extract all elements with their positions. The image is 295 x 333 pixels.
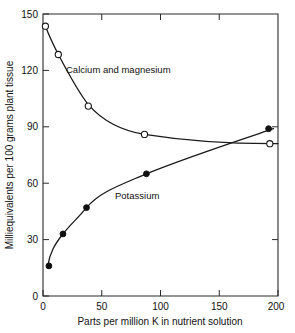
datapoint-camg-1 bbox=[42, 23, 48, 29]
y-tick-label-60: 60 bbox=[27, 178, 39, 189]
x-axis-title: Parts per million K in nutrient solution bbox=[77, 316, 242, 327]
datapoint-camg-5 bbox=[267, 141, 273, 147]
chart-figure: 0 30 60 90 120 150 0 50 100 150 200 bbox=[0, 0, 295, 333]
x-tick-label-50: 50 bbox=[96, 301, 108, 312]
chart-svg: 0 30 60 90 120 150 0 50 100 150 200 bbox=[0, 0, 295, 333]
series-label-potassium: Potassium bbox=[115, 190, 159, 201]
y-axis-title: Milliequivalents per 100 grams plant tis… bbox=[4, 60, 15, 249]
datapoint-camg-4 bbox=[141, 131, 147, 137]
y-tick-label-120: 120 bbox=[21, 65, 38, 76]
y-tick-label-90: 90 bbox=[27, 121, 39, 132]
x-tick-label-100: 100 bbox=[152, 301, 169, 312]
y-tick-label-30: 30 bbox=[27, 234, 39, 245]
series-label-calcium-magnesium: Calcium and magnesium bbox=[66, 64, 171, 75]
chart-background bbox=[0, 0, 295, 333]
x-tick-label-150: 150 bbox=[211, 301, 228, 312]
y-tick-label-0: 0 bbox=[32, 291, 38, 302]
datapoint-camg-3 bbox=[85, 103, 91, 109]
datapoint-k-4 bbox=[144, 171, 150, 177]
datapoint-k-2 bbox=[60, 231, 66, 237]
datapoint-camg-2 bbox=[55, 51, 61, 57]
datapoint-k-3 bbox=[84, 205, 90, 211]
x-tick-label-200: 200 bbox=[268, 301, 285, 312]
x-tick-label-0: 0 bbox=[40, 301, 46, 312]
datapoint-k-5 bbox=[266, 126, 272, 132]
datapoint-k-1 bbox=[46, 263, 52, 269]
y-tick-label-150: 150 bbox=[21, 9, 38, 20]
